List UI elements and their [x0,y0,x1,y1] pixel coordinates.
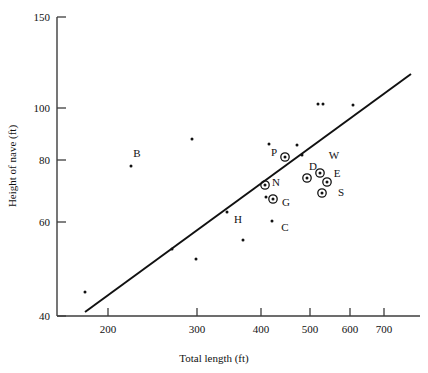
data-point-core[interactable] [284,156,287,159]
data-point-dot[interactable] [84,291,87,294]
data-point-label: B [133,147,140,159]
data-point-label: C [281,221,288,233]
data-point-dot[interactable] [301,154,304,157]
data-point-label: D [309,160,317,172]
y-axis-tick-label: 150 [34,11,51,23]
x-axis-tick-label: 300 [189,323,206,335]
y-axis-title: Height of nave (ft) [6,125,19,207]
data-point-label: E [334,167,341,179]
x-axis-tick-label: 700 [376,323,393,335]
data-point-label: H [234,213,242,225]
data-point-dot[interactable] [265,196,268,199]
x-axis-tick-label: 400 [253,323,270,335]
data-point-label: G [282,196,290,208]
data-point-dot[interactable] [195,258,198,261]
data-point-dot[interactable] [317,103,320,106]
data-point-dot[interactable] [322,103,325,106]
x-axis-tick-label: 500 [302,323,319,335]
data-point-core[interactable] [272,198,275,201]
data-point-dot[interactable] [296,144,299,147]
data-point-dot[interactable] [191,138,194,141]
scatter-plot-figure: 406080100150200300400500600700PNGDWESBHC… [0,0,428,373]
chart-canvas: 406080100150200300400500600700PNGDWESBHC… [0,0,428,373]
data-point-core[interactable] [264,184,267,187]
data-point-dot[interactable] [242,239,245,242]
y-axis-tick-label: 100 [34,102,51,114]
data-point-core[interactable] [306,177,309,180]
regression-trendline [85,74,411,312]
data-point-dot[interactable] [268,143,271,146]
y-axis-tick-label: 40 [39,310,51,322]
data-point-label: P [271,146,277,158]
data-point-dot[interactable] [130,165,133,168]
data-point-label: S [338,186,344,198]
data-point-label: W [329,149,340,161]
data-point-dot[interactable] [171,248,174,251]
data-point-dot[interactable] [271,220,274,223]
x-axis-title: Total length (ft) [179,352,249,365]
x-axis-tick-label: 200 [100,323,117,335]
y-axis-tick-label: 60 [39,216,51,228]
data-point-core[interactable] [326,181,329,184]
x-axis-tick-label: 600 [342,323,359,335]
y-axis-tick-label: 80 [39,154,51,166]
data-point-core[interactable] [319,172,322,175]
data-point-label: N [272,176,280,188]
data-point-core[interactable] [321,192,324,195]
data-point-dot[interactable] [352,104,355,107]
data-point-dot[interactable] [226,211,229,214]
